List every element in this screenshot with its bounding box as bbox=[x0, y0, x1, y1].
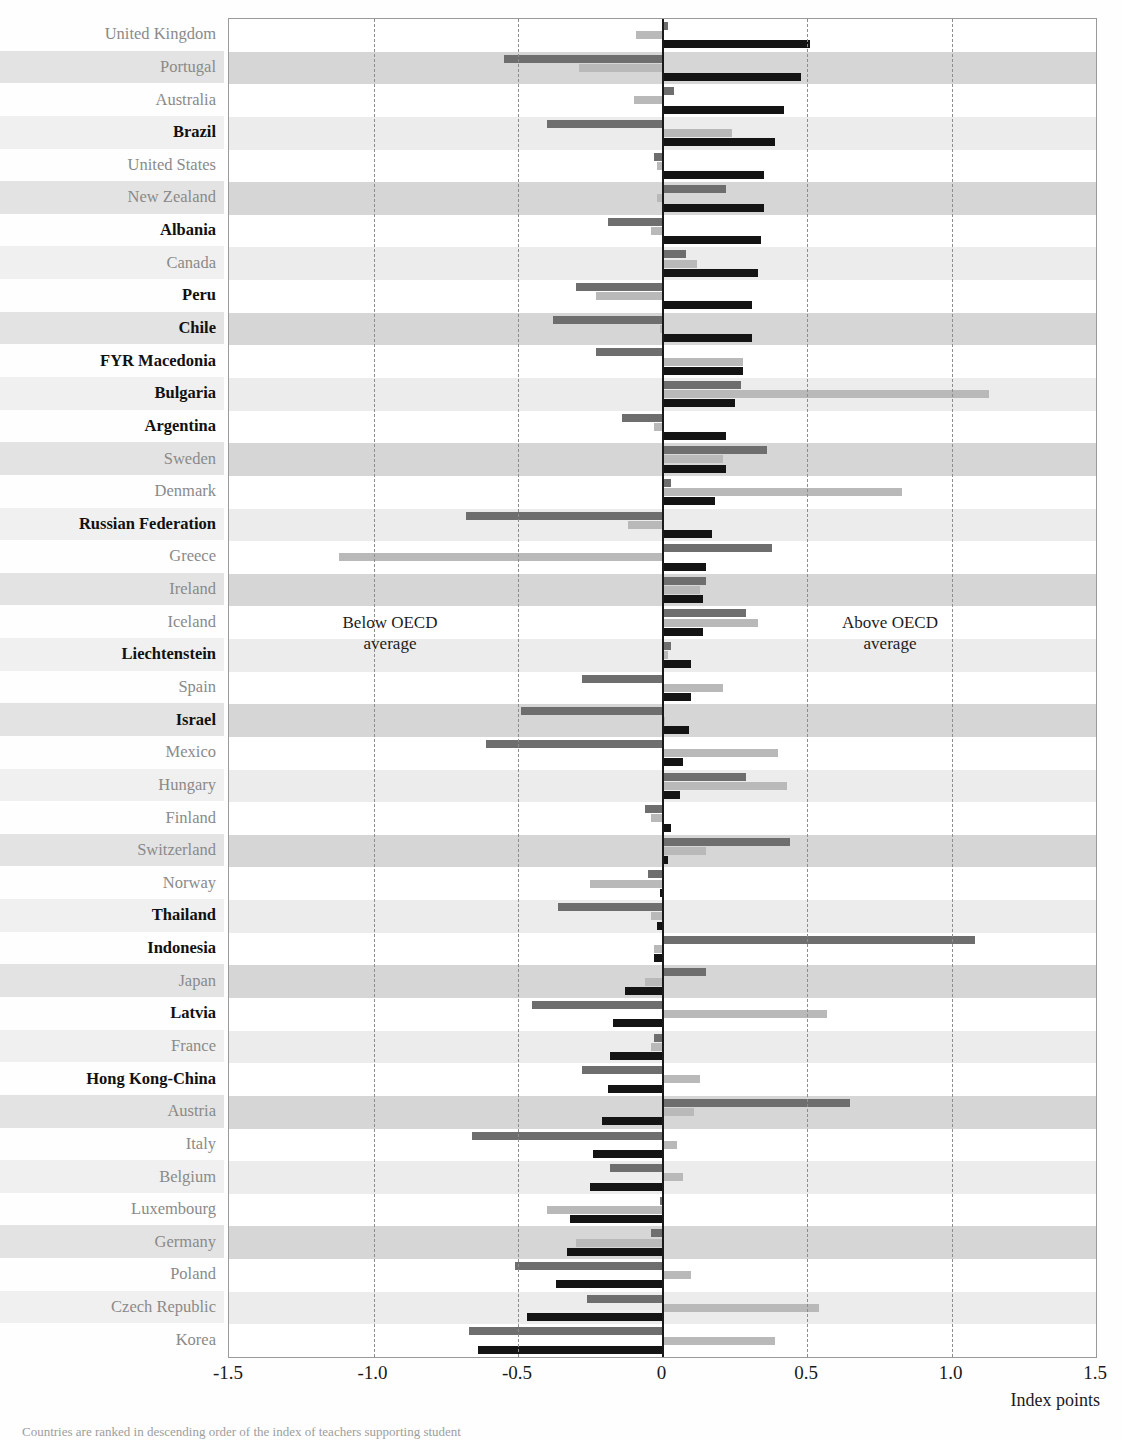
bar-series-1 bbox=[521, 707, 663, 715]
bar-series-2 bbox=[663, 1271, 692, 1279]
bar-series-2 bbox=[663, 260, 698, 268]
bar-series-3 bbox=[663, 824, 672, 832]
bar-series-1 bbox=[576, 283, 663, 291]
bar-series-1 bbox=[532, 1001, 662, 1009]
bar-series-1 bbox=[663, 773, 747, 781]
bar-series-1 bbox=[558, 903, 662, 911]
bar-series-3 bbox=[663, 73, 802, 81]
bar-series-2 bbox=[663, 1010, 828, 1018]
country-label: Sweden bbox=[164, 451, 216, 468]
country-label: United Kingdom bbox=[105, 26, 216, 43]
bar-series-3 bbox=[602, 1117, 663, 1125]
bar-series-2 bbox=[663, 358, 744, 366]
bar-series-1 bbox=[663, 838, 790, 846]
country-label: Korea bbox=[176, 1332, 216, 1349]
country-label: Norway bbox=[163, 875, 216, 892]
bar-series-3 bbox=[663, 334, 753, 342]
country-label: Denmark bbox=[155, 483, 216, 500]
bar-series-3 bbox=[478, 1346, 663, 1354]
country-label: Peru bbox=[182, 287, 216, 304]
bar-series-1 bbox=[645, 805, 662, 813]
bar-series-2 bbox=[663, 847, 706, 855]
bar-series-1 bbox=[610, 1164, 662, 1172]
country-label: Czech Republic bbox=[111, 1299, 216, 1316]
bar-series-3 bbox=[663, 693, 692, 701]
country-label: Mexico bbox=[166, 744, 216, 761]
figure-caption: Countries are ranked in descending order… bbox=[22, 1424, 1102, 1440]
x-tick-label: 0 bbox=[657, 1362, 667, 1384]
x-tick-label: -1.5 bbox=[213, 1362, 243, 1384]
zero-axis-line bbox=[662, 19, 664, 1357]
bar-series-3 bbox=[527, 1313, 663, 1321]
chart-title bbox=[228, 0, 1097, 16]
bar-series-2 bbox=[663, 684, 724, 692]
country-label: Brazil bbox=[173, 124, 216, 141]
bar-series-1 bbox=[663, 185, 727, 193]
bar-series-2 bbox=[663, 1304, 819, 1312]
x-tick-label: 0.5 bbox=[794, 1362, 818, 1384]
bar-series-3 bbox=[663, 399, 735, 407]
country-label: Spain bbox=[178, 679, 216, 696]
category-axis-labels: United KingdomPortugalAustraliaBrazilUni… bbox=[0, 18, 224, 1358]
annotation-above-oecd-average: Above OECD average bbox=[800, 612, 980, 655]
bar-series-1 bbox=[663, 250, 686, 258]
x-tick-label: -0.5 bbox=[502, 1362, 532, 1384]
bar-series-2 bbox=[579, 64, 663, 72]
country-label: Japan bbox=[178, 973, 216, 990]
bar-series-3 bbox=[608, 1085, 663, 1093]
bar-series-3 bbox=[556, 1280, 663, 1288]
annotation-below-oecd-average: Below OECD average bbox=[300, 612, 480, 655]
bar-series-2 bbox=[628, 521, 663, 529]
country-label: Israel bbox=[176, 712, 216, 729]
bar-series-2 bbox=[663, 782, 787, 790]
country-label: Italy bbox=[186, 1136, 216, 1153]
gridline bbox=[807, 19, 808, 1357]
bar-series-1 bbox=[553, 316, 663, 324]
plot-area bbox=[228, 18, 1097, 1358]
bar-series-1 bbox=[515, 1262, 662, 1270]
gridline bbox=[952, 19, 953, 1357]
country-label: France bbox=[171, 1038, 216, 1055]
bar-series-3 bbox=[663, 791, 680, 799]
bar-series-2 bbox=[663, 1337, 776, 1345]
bar-series-3 bbox=[625, 987, 663, 995]
bar-series-1 bbox=[663, 577, 706, 585]
gridline bbox=[518, 19, 519, 1357]
annotation-above-line1: Above OECD bbox=[800, 612, 980, 633]
bar-series-2 bbox=[636, 31, 662, 39]
bar-series-3 bbox=[663, 660, 692, 668]
bar-series-3 bbox=[570, 1215, 662, 1223]
bar-series-3 bbox=[663, 628, 703, 636]
bar-series-1 bbox=[663, 936, 975, 944]
x-axis-title: Index points bbox=[1011, 1390, 1101, 1411]
bar-series-2 bbox=[645, 978, 662, 986]
bar-series-2 bbox=[663, 129, 732, 137]
bar-series-1 bbox=[648, 870, 662, 878]
bar-series-1 bbox=[622, 414, 662, 422]
bar-series-3 bbox=[663, 595, 703, 603]
bar-series-1 bbox=[582, 1066, 663, 1074]
bar-series-3 bbox=[663, 269, 758, 277]
country-label: Hungary bbox=[158, 777, 216, 794]
bar-series-1 bbox=[472, 1132, 663, 1140]
bar-series-1 bbox=[587, 1295, 662, 1303]
bar-series-1 bbox=[469, 1327, 663, 1335]
x-tick-label: 1.5 bbox=[1083, 1362, 1107, 1384]
bar-series-3 bbox=[613, 1019, 662, 1027]
bar-series-3 bbox=[663, 563, 706, 571]
country-label: Chile bbox=[178, 320, 216, 337]
bar-series-1 bbox=[466, 512, 663, 520]
bar-series-1 bbox=[663, 642, 672, 650]
bar-series-2 bbox=[590, 880, 662, 888]
bar-series-1 bbox=[663, 479, 672, 487]
country-label: Belgium bbox=[159, 1169, 216, 1186]
bar-series-3 bbox=[663, 497, 715, 505]
bar-series-3 bbox=[663, 367, 744, 375]
bar-series-3 bbox=[663, 40, 810, 48]
bar-series-1 bbox=[663, 381, 741, 389]
country-label: Luxembourg bbox=[131, 1201, 216, 1218]
bar-series-1 bbox=[663, 1099, 851, 1107]
bar-series-1 bbox=[608, 218, 663, 226]
bar-series-3 bbox=[663, 432, 727, 440]
